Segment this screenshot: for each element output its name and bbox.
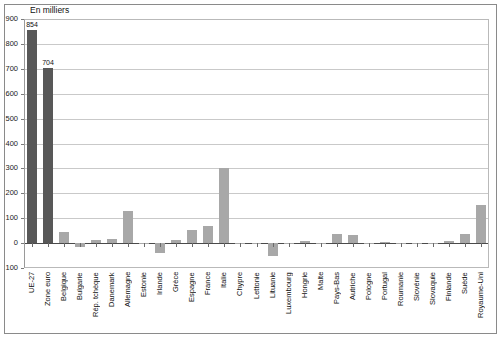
- x-axis-tick-mark: [449, 243, 450, 247]
- x-axis-label: Slovénie: [412, 272, 421, 336]
- bar: [412, 19, 422, 268]
- x-axis-tick-mark: [208, 243, 209, 247]
- x-axis-label: Pologne: [364, 272, 373, 336]
- x-axis-tick-mark: [192, 243, 193, 247]
- bar: [364, 19, 374, 268]
- x-axis-label: Lituanie: [268, 272, 277, 336]
- bar: [396, 19, 406, 268]
- bar-rect: [332, 234, 342, 243]
- x-axis-label: Zone euro: [43, 272, 52, 336]
- bar: [139, 19, 149, 268]
- bar: [59, 19, 69, 268]
- x-axis-label: Roumanie: [396, 272, 405, 336]
- bar-value-label: 704: [42, 59, 54, 67]
- x-axis-label: Malte: [316, 272, 325, 336]
- x-axis-label: Portugal: [380, 272, 389, 336]
- x-axis-tick-mark: [48, 243, 49, 247]
- y-axis-tick-label: 800: [0, 40, 18, 48]
- bar-series: 854704: [24, 19, 489, 268]
- x-axis-tick-mark: [385, 243, 386, 247]
- bar: [123, 19, 133, 268]
- bar: [460, 19, 470, 268]
- x-axis-label: Rép. tchèque: [91, 272, 100, 336]
- bar: [219, 19, 229, 268]
- x-axis-tick-mark: [80, 243, 81, 247]
- bar: [91, 19, 101, 268]
- y-axis-tick-mark: [21, 268, 24, 269]
- x-axis-tick-mark: [417, 243, 418, 247]
- x-axis-label: Chypre: [235, 272, 244, 336]
- y-axis-tick-label: 200: [0, 189, 18, 197]
- x-axis-tick-mark: [433, 243, 434, 247]
- x-axis-label: UE-27: [27, 272, 36, 336]
- y-axis-tick-label: 100: [0, 264, 18, 272]
- x-axis-label: Finlande: [444, 272, 453, 336]
- y-axis-tick-label: 600: [0, 90, 18, 98]
- x-axis-tick-mark: [257, 243, 258, 247]
- bar: [476, 19, 486, 268]
- bar: [428, 19, 438, 268]
- bar: [171, 19, 181, 268]
- bar: [380, 19, 390, 268]
- bar: [155, 19, 165, 268]
- bar-rect: [27, 30, 37, 243]
- bar: [75, 19, 85, 268]
- x-axis-labels: UE-27Zone euroBelgiqueBulgarieRép. tchèq…: [24, 272, 489, 338]
- bar-rect: [43, 68, 53, 243]
- x-axis-tick-mark: [176, 243, 177, 247]
- bar: [268, 19, 278, 268]
- x-axis-tick-mark: [289, 243, 290, 247]
- y-axis-unit-label: En milliers: [30, 5, 69, 15]
- bar: [316, 19, 326, 268]
- bar: [444, 19, 454, 268]
- bar-rect: [203, 226, 213, 243]
- x-axis-tick-mark: [224, 243, 225, 247]
- x-axis-label: Italie: [219, 272, 228, 336]
- x-axis-tick-mark: [369, 243, 370, 247]
- x-axis-tick-mark: [321, 243, 322, 247]
- x-axis-label: Royaume-Uni: [476, 272, 485, 336]
- bar-rect: [460, 234, 470, 243]
- bar: [252, 19, 262, 268]
- bar-rect: [476, 205, 486, 244]
- bar: [284, 19, 294, 268]
- bar: [187, 19, 197, 268]
- bar-rect: [348, 235, 358, 243]
- x-axis-label: Danemark: [107, 272, 116, 336]
- x-axis-tick-mark: [465, 243, 466, 247]
- x-axis-tick-mark: [96, 243, 97, 247]
- x-axis-tick-mark: [128, 243, 129, 247]
- x-axis-label: Pays-Bas: [332, 272, 341, 336]
- bar: 704: [43, 19, 53, 268]
- y-axis-tick-label: 100: [0, 214, 18, 222]
- x-axis-tick-mark: [337, 243, 338, 247]
- x-axis-label: Belgique: [59, 272, 68, 336]
- y-axis-tick-label: 400: [0, 140, 18, 148]
- x-axis-label: Slovaquie: [428, 272, 437, 336]
- x-axis-label: Suède: [460, 272, 469, 336]
- chart-screenshot: En milliers 9008007006005004003002001000…: [0, 0, 503, 340]
- bar-value-label: 854: [26, 21, 38, 29]
- x-axis-label: Irlande: [155, 272, 164, 336]
- x-axis-label: Autriche: [348, 272, 357, 336]
- bar: [107, 19, 117, 268]
- bar: [203, 19, 213, 268]
- bar: [235, 19, 245, 268]
- bar-rect: [219, 168, 229, 243]
- x-axis-tick-mark: [240, 243, 241, 247]
- y-axis-tick-label: 700: [0, 65, 18, 73]
- x-axis-tick-mark: [32, 243, 33, 247]
- y-axis-tick-label: 300: [0, 164, 18, 172]
- x-axis-tick-mark: [144, 243, 145, 247]
- x-axis-label: Estonie: [139, 272, 148, 336]
- x-axis-label: Luxembourg: [284, 272, 293, 336]
- x-axis-label: Grèce: [171, 272, 180, 336]
- x-axis-tick-mark: [305, 243, 306, 247]
- bar: [332, 19, 342, 268]
- y-axis-tick-label: 500: [0, 115, 18, 123]
- x-axis-tick-mark: [273, 243, 274, 247]
- y-axis-tick-label: 0: [0, 239, 18, 247]
- bar: [348, 19, 358, 268]
- bar-rect: [59, 232, 69, 243]
- bar: 854: [27, 19, 37, 268]
